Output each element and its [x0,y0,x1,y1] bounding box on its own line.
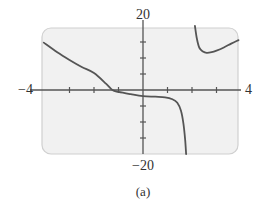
function-graph [0,0,262,208]
y-min-label: −20 [132,159,154,173]
x-max-label: 4 [245,83,252,97]
figure-caption: (a) [136,185,150,198]
y-max-label: 20 [136,8,150,22]
x-min-label: −4 [18,83,33,97]
plot-frame [42,28,238,154]
